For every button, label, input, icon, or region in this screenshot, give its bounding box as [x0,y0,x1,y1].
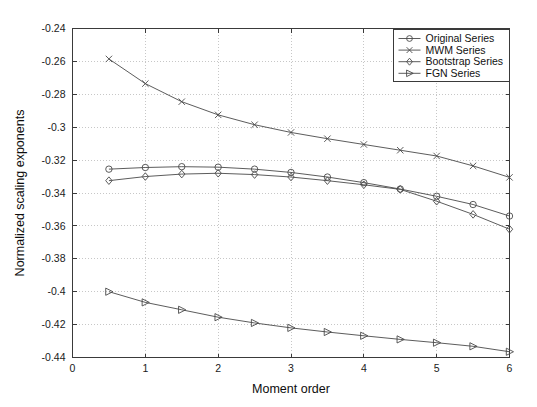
series-layer [106,56,514,356]
y-axis-title: Normalized scaling exponents [13,110,27,277]
x-tick-label: 3 [288,362,294,374]
series-original-series [106,163,513,219]
series-line [109,173,510,229]
y-tick-label: -0.32 [42,154,66,166]
legend-label: Original Series [426,32,495,44]
x-axis-title: Moment order [252,382,330,396]
y-tick-label: -0.44 [42,351,66,363]
x-tick-label: 1 [142,362,148,374]
y-tick-label: -0.26 [42,55,66,67]
legend-label: MWM Series [426,44,486,56]
y-tick-label: -0.34 [42,187,66,199]
x-tick-label: 0 [70,362,76,374]
series-line [109,167,510,216]
series-fgn-series [106,288,514,355]
data-point-marker-x-cross [179,99,185,105]
legend: Original SeriesMWM SeriesBootstrap Serie… [394,30,510,82]
y-tick-label: -0.42 [42,318,66,330]
y-tick-label: -0.3 [47,121,65,133]
chart-canvas: 0123456-0.44-0.42-0.4-0.38-0.36-0.34-0.3… [0,0,537,407]
chart-figure: 0123456-0.44-0.42-0.4-0.38-0.36-0.34-0.3… [0,0,537,407]
legend-label: FGN Series [426,67,481,79]
data-point-marker-x-cross [470,163,476,169]
x-tick-label: 5 [434,362,440,374]
y-tick-label: -0.28 [42,88,66,100]
x-tick-label: 6 [507,362,513,374]
x-tick-label: 4 [361,362,367,374]
y-tick-label: -0.24 [42,22,66,34]
x-tick-label: 2 [215,362,221,374]
series-line [109,292,510,352]
y-tick-label: -0.36 [42,220,66,232]
y-tick-label: -0.38 [42,252,66,264]
series-bootstrap-series [106,169,513,233]
y-tick-label: -0.4 [47,285,65,297]
legend-label: Bootstrap Series [426,55,504,67]
data-point-marker-x-cross [251,122,257,128]
